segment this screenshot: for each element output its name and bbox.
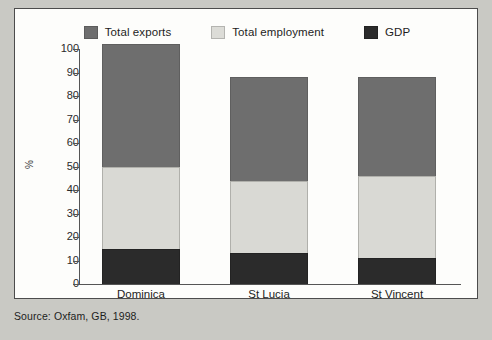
y-tick-20: 20 — [15, 237, 79, 238]
chart-figure-panel: Total exports Total employment GDP % 010… — [14, 8, 478, 299]
y-tick-10: 10 — [15, 261, 79, 262]
y-tick-label: 0 — [39, 277, 79, 289]
y-tick-70: 70 — [15, 120, 79, 121]
y-tick-100: 100 — [15, 49, 79, 50]
y-tick-label: 90 — [39, 66, 79, 78]
y-tick-label: 50 — [39, 160, 79, 172]
bar-group-dominica — [102, 44, 180, 284]
y-tick-50: 50 — [15, 167, 79, 168]
bar-segment-total-exports — [358, 77, 436, 176]
y-tick-60: 60 — [15, 143, 79, 144]
y-tick-90: 90 — [15, 73, 79, 74]
bar-segment-total-employment — [358, 176, 436, 258]
y-tick-0: 0 — [15, 284, 79, 285]
y-tick-label: 30 — [39, 207, 79, 219]
y-tick-label: 40 — [39, 183, 79, 195]
x-category-label-dominica: Dominica — [76, 288, 206, 300]
y-tick-label: 100 — [39, 42, 79, 54]
y-tick-40: 40 — [15, 190, 79, 191]
y-tick-label: 10 — [39, 254, 79, 266]
y-tick-label: 80 — [39, 89, 79, 101]
bar-segment-total-employment — [230, 181, 308, 254]
figure-source-caption: Source: Oxfam, GB, 1998. — [14, 310, 140, 322]
y-tick-80: 80 — [15, 96, 79, 97]
y-tick-label: 20 — [39, 230, 79, 242]
y-tick-label: 60 — [39, 136, 79, 148]
bar-group-st-vincent — [358, 77, 436, 284]
y-axis-title: % — [24, 160, 35, 169]
bar-segment-total-exports — [102, 44, 180, 166]
x-category-label-st-lucia: St Lucia — [204, 288, 334, 300]
screenshot-root: Total exports Total employment GDP % 010… — [0, 0, 492, 340]
bar-segment-gdp — [230, 253, 308, 284]
y-tick-30: 30 — [15, 214, 79, 215]
bar-series-container — [79, 9, 461, 300]
bar-group-st-lucia — [230, 77, 308, 284]
bar-segment-total-exports — [230, 77, 308, 180]
bar-segment-total-employment — [102, 167, 180, 249]
x-category-label-st-vincent: St Vincent — [332, 288, 462, 300]
plot-area: % 0102030405060708090100 DominicaSt Luci… — [15, 9, 479, 300]
y-tick-label: 70 — [39, 113, 79, 125]
bar-segment-gdp — [102, 249, 180, 284]
bar-segment-gdp — [358, 258, 436, 284]
